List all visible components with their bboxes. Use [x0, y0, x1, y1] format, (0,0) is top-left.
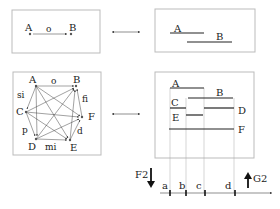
interval-label-e: E [172, 112, 179, 123]
interval-label-f: F [238, 124, 245, 135]
interval-label-a: A [171, 78, 180, 89]
panel-mid-right: A B C D E F [155, 72, 254, 193]
interval-label-a: A [173, 23, 182, 34]
panel-frame [155, 9, 255, 52]
f2-label: F2 [135, 169, 148, 180]
node-label-d: D [28, 141, 36, 152]
graph-edges [26, 86, 82, 140]
interval-label-b: B [216, 31, 223, 42]
g2-indicator: G2 [244, 172, 267, 188]
tick-label-b: b [179, 180, 185, 191]
relation-label-si: si [17, 90, 25, 100]
relation-label-mi: mi [45, 142, 57, 152]
node-dot [70, 33, 72, 35]
f2-indicator: F2 [135, 168, 155, 188]
panel-top-left: A B o [12, 10, 100, 53]
relation-label-fi: fi [82, 94, 88, 104]
g2-label: G2 [253, 173, 267, 184]
node-label-e: E [70, 142, 77, 153]
panel-mid-left: A B C F D E o si fi p d mi [13, 72, 101, 155]
relation-label-o: o [46, 24, 51, 34]
node-label-a: A [28, 74, 37, 85]
relation-label-d: d [77, 126, 83, 136]
node-label-b: B [73, 74, 80, 85]
node-label-a: A [24, 22, 33, 33]
interval-label-c: C [171, 97, 179, 108]
panel-top-right: A B [155, 9, 255, 52]
tick-label-a: a [162, 180, 168, 191]
tick-label-d: d [225, 180, 232, 191]
node-label-c: C [16, 106, 24, 117]
node-label-f: F [88, 111, 95, 122]
tick-label-c: c [196, 180, 202, 191]
relation-label-p: p [22, 125, 28, 135]
node-label-b: B [69, 22, 76, 33]
guide-lines [170, 88, 234, 193]
node-dot [29, 33, 31, 35]
interval-label-d: D [238, 105, 246, 116]
diagram-canvas: A B o A B [0, 0, 280, 209]
relation-label-o: o [51, 76, 56, 86]
interval-label-b: B [216, 87, 223, 98]
